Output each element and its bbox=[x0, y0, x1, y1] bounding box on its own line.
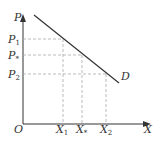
origin-label: O bbox=[14, 123, 23, 136]
y-axis-label: P bbox=[13, 11, 22, 24]
demand-curve bbox=[34, 15, 119, 83]
quantity-label-x1: X1 bbox=[55, 123, 68, 137]
price-label-p1: P1 bbox=[7, 33, 20, 47]
price-label-pstar: P* bbox=[7, 49, 19, 63]
curve-label-d: D bbox=[120, 70, 130, 83]
demand-diagram: P P1 P* P2 D O X1 X* X2 X bbox=[0, 0, 163, 145]
quantity-label-x2: X2 bbox=[99, 123, 112, 137]
x-axis-label: X bbox=[143, 123, 153, 136]
price-label-p2: P2 bbox=[7, 68, 20, 82]
quantity-label-xstar: X* bbox=[75, 123, 88, 137]
